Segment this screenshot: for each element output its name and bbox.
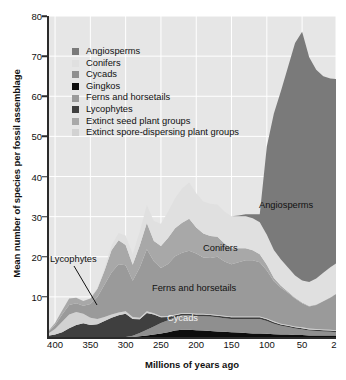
- legend-item: Gingkos: [72, 81, 239, 93]
- x-tick-label: 350: [82, 339, 98, 350]
- legend-item: Conifers: [72, 58, 239, 70]
- y-tick-mark: [42, 55, 47, 57]
- x-tick-label: 100: [259, 339, 275, 350]
- y-tick-label: 40: [16, 171, 42, 182]
- y-tick-mark: [42, 256, 47, 258]
- y-tick-label: 60: [16, 91, 42, 102]
- legend: AngiospermsConifersCycadsGingkosFerns an…: [72, 46, 239, 139]
- legend-item: Ferns and horsetails: [72, 92, 239, 104]
- annotation-ferns-and-horsetails: Ferns and horsetails: [152, 283, 236, 293]
- legend-item: Extinct seed plant groups: [72, 116, 239, 128]
- legend-item-label: Extinct spore-dispersing plant groups: [86, 127, 239, 139]
- legend-item: Cycads: [72, 69, 239, 81]
- legend-swatch-icon: [72, 71, 79, 78]
- legend-swatch-icon: [72, 60, 79, 67]
- legend-item-label: Extinct seed plant groups: [86, 116, 190, 128]
- y-tick-label: 30: [16, 211, 42, 222]
- legend-swatch-icon: [72, 83, 79, 90]
- annotation-cycads: Cycads: [167, 313, 198, 323]
- x-tick-label: 50: [297, 339, 308, 350]
- y-tick-label: 70: [16, 51, 42, 62]
- y-tick-label: 20: [16, 251, 42, 262]
- legend-item-label: Ferns and horsetails: [86, 92, 170, 104]
- y-tick-mark: [42, 15, 47, 17]
- y-tick-mark: [42, 216, 47, 218]
- x-tick-label: 400: [47, 339, 63, 350]
- x-tick-label: 2: [331, 339, 336, 350]
- y-tick-label: 50: [16, 131, 42, 142]
- legend-swatch-icon: [72, 118, 79, 125]
- x-tick-label: 250: [153, 339, 169, 350]
- legend-swatch-icon: [72, 48, 79, 55]
- legend-item-label: Cycads: [86, 69, 117, 81]
- legend-item: Extinct spore-dispersing plant groups: [72, 127, 239, 139]
- legend-item-label: Conifers: [86, 58, 121, 70]
- legend-swatch-icon: [72, 95, 79, 102]
- legend-swatch-icon: [72, 129, 79, 136]
- x-tick-label: 300: [118, 339, 134, 350]
- x-tick-label: 150: [224, 339, 240, 350]
- y-tick-label: 10: [16, 291, 42, 302]
- y-tick-mark: [42, 136, 47, 138]
- y-tick-mark: [42, 96, 47, 98]
- annotation-angiosperms: Angiosperms: [259, 200, 313, 210]
- y-tick-mark: [42, 296, 47, 298]
- legend-swatch-icon: [72, 106, 79, 113]
- legend-item-label: Gingkos: [86, 81, 120, 93]
- annotation-conifers: Conifers: [203, 243, 238, 253]
- y-tick-label: 80: [16, 11, 42, 22]
- x-axis-title: Millions of years ago: [48, 359, 336, 370]
- legend-item: Angiosperms: [72, 46, 239, 58]
- legend-item-label: Angiosperms: [86, 46, 140, 58]
- legend-item: Lycophytes: [72, 104, 239, 116]
- fossil-plant-diversity-chart: Mean number of species per fossil assemb…: [0, 0, 346, 380]
- x-tick-label: 200: [188, 339, 204, 350]
- legend-item-label: Lycophytes: [86, 104, 133, 116]
- y-tick-mark: [42, 176, 47, 178]
- annotation-lycophytes: Lycophytes: [50, 254, 97, 264]
